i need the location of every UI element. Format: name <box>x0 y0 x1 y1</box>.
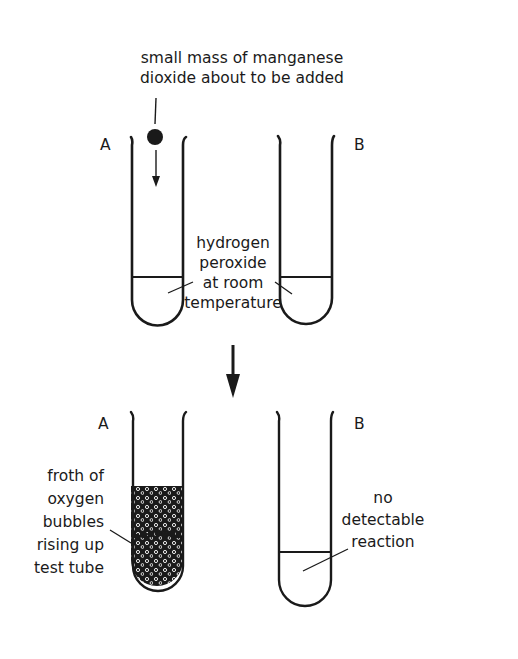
tube-a-label-after: A <box>98 414 109 434</box>
no-reaction-annotation-line-2: detectable <box>333 509 433 531</box>
test-tube-a-after <box>110 412 188 596</box>
mno2-annotation: small mass of manganese dioxide about to… <box>117 48 367 88</box>
h2o2-annotation-line-1: hydrogen <box>176 233 290 253</box>
h2o2-annotation-line-3: at room <box>176 273 290 293</box>
mno2-annotation-line-1: small mass of manganese <box>117 48 367 68</box>
froth-annotation-line-3: bubbles <box>14 511 104 534</box>
h2o2-annotation-line-4: temperature <box>176 293 290 313</box>
tube-b-label-before: B <box>354 135 365 155</box>
no-reaction-annotation: no detectable reaction <box>333 487 433 553</box>
mno2-annotation-line-2: dioxide about to be added <box>117 68 367 88</box>
down-arrow-icon <box>226 345 240 398</box>
h2o2-annotation: hydrogen peroxide at room temperature <box>176 233 290 313</box>
froth-annotation-line-2: oxygen <box>14 488 104 511</box>
froth-pointer <box>110 530 131 543</box>
mno2-particle <box>147 98 163 145</box>
falling-arrow-icon <box>152 150 160 187</box>
tube-b-label-after: B <box>354 414 365 434</box>
froth-annotation: froth of oxygen bubbles rising up test t… <box>14 465 104 580</box>
no-reaction-annotation-line-1: no <box>333 487 433 509</box>
tube-a-label-before: A <box>100 135 111 155</box>
froth-annotation-line-1: froth of <box>14 465 104 488</box>
no-reaction-annotation-line-3: reaction <box>333 531 433 553</box>
froth-annotation-line-4: rising up <box>14 534 104 557</box>
froth-annotation-line-5: test tube <box>14 557 104 580</box>
h2o2-annotation-line-2: peroxide <box>176 253 290 273</box>
